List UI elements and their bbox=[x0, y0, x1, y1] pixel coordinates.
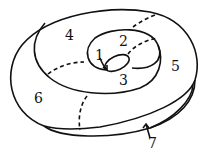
dashed-curve-top bbox=[133, 14, 158, 27]
label-region-4: 4 bbox=[65, 27, 74, 43]
lower-rim-curve bbox=[44, 80, 195, 136]
dashed-curve-left bbox=[48, 62, 84, 74]
label-region-2: 2 bbox=[119, 33, 128, 49]
label-region-3: 3 bbox=[119, 72, 128, 88]
dashed-curve-bottom bbox=[79, 96, 87, 130]
label-region-1: 1 bbox=[95, 47, 104, 63]
dashed-curve-2 bbox=[128, 38, 158, 54]
label-region-5: 5 bbox=[171, 58, 180, 74]
label-region-7: 7 bbox=[148, 135, 157, 151]
torus-diagram: 1 2 3 4 5 6 7 bbox=[0, 0, 203, 153]
label-region-6: 6 bbox=[34, 90, 43, 106]
